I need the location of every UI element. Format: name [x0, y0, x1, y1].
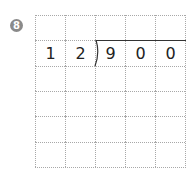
answer-cell[interactable] [125, 142, 155, 167]
answer-cell[interactable] [35, 142, 65, 167]
answer-cell[interactable] [65, 142, 95, 167]
answer-cell[interactable] [35, 91, 65, 116]
grid-cell [155, 15, 185, 40]
answer-cell[interactable] [95, 116, 125, 141]
answer-cell[interactable] [95, 142, 125, 167]
answer-cell[interactable] [65, 91, 95, 116]
dividend-digit: 0 [155, 40, 185, 65]
answer-cell[interactable] [65, 116, 95, 141]
grid-cell [35, 15, 65, 40]
answer-cell[interactable] [125, 66, 155, 91]
grid-cell [95, 15, 125, 40]
division-bracket [89, 40, 99, 66]
problem-number-badge: 8 [10, 19, 23, 32]
division-grid: 1 2 9 0 0 [35, 15, 186, 168]
answer-cell[interactable] [35, 66, 65, 91]
dividend-digit: 9 [95, 40, 125, 65]
division-bar [96, 40, 186, 41]
grid-cell [125, 15, 155, 40]
grid-cell [65, 15, 95, 40]
answer-cell[interactable] [125, 116, 155, 141]
answer-cell[interactable] [155, 66, 185, 91]
answer-cell[interactable] [155, 91, 185, 116]
divisor-digit: 1 [35, 40, 65, 65]
answer-cell[interactable] [65, 66, 95, 91]
dividend-digit: 0 [125, 40, 155, 65]
answer-cell[interactable] [155, 116, 185, 141]
answer-cell[interactable] [95, 66, 125, 91]
answer-cell[interactable] [155, 142, 185, 167]
answer-cell[interactable] [125, 91, 155, 116]
answer-cell[interactable] [95, 91, 125, 116]
answer-cell[interactable] [35, 116, 65, 141]
